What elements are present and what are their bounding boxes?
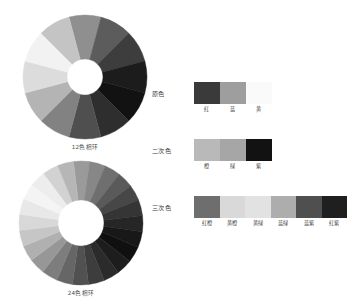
swatch-chip xyxy=(220,82,246,104)
swatch-cell: 红 xyxy=(194,82,220,112)
swatch-caption: 红 xyxy=(204,107,209,112)
swatch-caption: 蓝绿 xyxy=(278,221,288,226)
swatch-row-secondary: 二次色 橙绿紫 xyxy=(152,139,272,169)
swatch-chip xyxy=(245,196,271,218)
color-wheel-24-caption: 24色相环 xyxy=(16,289,146,297)
swatch-caption: 黄 xyxy=(256,107,261,112)
swatch-chip xyxy=(194,139,220,161)
swatch-chip xyxy=(220,139,246,161)
swatch-caption: 绿 xyxy=(230,164,235,169)
swatch-cell: 蓝绿 xyxy=(271,196,297,226)
swatch-chip xyxy=(271,196,297,218)
swatch-cell: 蓝紫 xyxy=(296,196,322,226)
swatch-cell: 红紫 xyxy=(322,196,348,226)
swatch-row-label-primary: 原色 xyxy=(152,82,194,97)
swatch-chip xyxy=(194,196,220,218)
swatch-row-tertiary: 三次色 红橙黄橙黄绿蓝绿蓝紫红紫 xyxy=(152,196,347,226)
swatch-cell: 红橙 xyxy=(194,196,220,226)
color-wheel-24-block: 24色相环 xyxy=(16,158,146,297)
swatch-caption: 橙 xyxy=(204,164,209,169)
swatch-strip-tertiary: 红橙黄橙黄绿蓝绿蓝紫红紫 xyxy=(194,196,347,226)
swatch-caption: 蓝紫 xyxy=(304,221,314,226)
swatch-caption: 蓝 xyxy=(230,107,235,112)
swatch-strip-secondary: 橙绿紫 xyxy=(194,139,272,169)
swatch-chip xyxy=(194,82,220,104)
swatch-cell: 蓝 xyxy=(220,82,246,112)
swatch-row-label-secondary: 二次色 xyxy=(152,139,194,154)
swatch-cell: 黄绿 xyxy=(245,196,271,226)
swatch-caption: 紫 xyxy=(256,164,261,169)
swatch-cell: 橙 xyxy=(194,139,220,169)
color-wheel-12-caption: 12色相环 xyxy=(20,143,150,151)
swatch-caption: 黄橙 xyxy=(227,221,237,226)
swatch-row-primary: 原色 红蓝黄 xyxy=(152,82,272,112)
swatch-chip xyxy=(246,139,272,161)
swatch-caption: 黄绿 xyxy=(253,221,263,226)
swatch-chip xyxy=(246,82,272,104)
swatch-caption: 红橙 xyxy=(202,221,212,226)
swatch-chip xyxy=(296,196,322,218)
color-wheel-12-block: 12色相环 xyxy=(20,12,150,151)
swatch-row-label-tertiary: 三次色 xyxy=(152,196,194,211)
swatch-strip-primary: 红蓝黄 xyxy=(194,82,272,112)
color-wheel-24-diagram xyxy=(16,158,146,288)
swatch-caption: 红紫 xyxy=(329,221,339,226)
swatch-cell: 黄 xyxy=(246,82,272,112)
swatch-cell: 绿 xyxy=(220,139,246,169)
color-wheel-12-diagram xyxy=(20,12,150,142)
swatch-cell: 紫 xyxy=(246,139,272,169)
swatch-chip xyxy=(322,196,348,218)
swatch-chip xyxy=(220,196,246,218)
swatch-cell: 黄橙 xyxy=(220,196,246,226)
